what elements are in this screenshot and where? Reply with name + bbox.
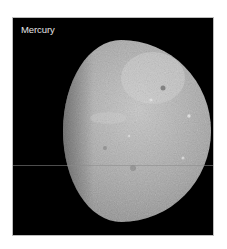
scan-line-artifact — [13, 165, 213, 166]
mercury-planet — [13, 18, 214, 236]
image-frame: Mercury — [12, 17, 214, 236]
planet-label: Mercury — [21, 24, 55, 35]
